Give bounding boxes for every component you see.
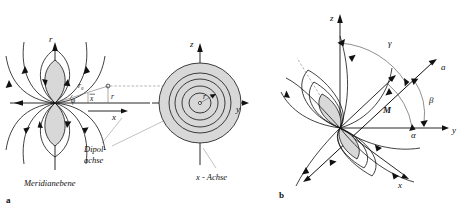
panel-b-M-vector [340, 75, 396, 128]
label-x-achse-callout: x - Achse [195, 172, 227, 182]
label-r-cross: r [203, 92, 206, 101]
label-x-bar: x [89, 94, 94, 103]
label-y-axis-cross: y [235, 104, 240, 114]
panel-b-label-a: a [441, 62, 446, 72]
diagram-canvas: r r₀ r x φ x Dipol- achse Meridianebene … [0, 0, 471, 212]
arc-beta [414, 80, 425, 123]
label-z-axis-cross: z [189, 39, 194, 49]
label-x-axis: x [111, 112, 116, 122]
panel-b-dipole-axis [303, 59, 437, 182]
panel-a-cross-section: z y r x - Achse [152, 39, 249, 182]
panel-b-dipole-orientation: z y x M a α β γ b [279, 13, 465, 200]
label-dipole-axis-line2: achse [84, 155, 104, 165]
panel-b-label-gamma: γ [388, 38, 392, 48]
panel-a-meridian-plane: r r₀ r x φ x Dipol- achse Meridianebene … [6, 34, 182, 205]
x-achse-leader [203, 148, 216, 168]
panel-b-label-alpha: α [411, 130, 416, 140]
panel-b-label-beta: β [428, 95, 434, 105]
label-r-radius: r [111, 92, 114, 101]
label-meridian-plane: Meridianebene [23, 178, 76, 188]
label-dipole-axis-line1: Dipol- [83, 144, 106, 154]
label-phi-angle: φ [71, 96, 75, 105]
label-r-axis: r [49, 34, 53, 44]
panel-b-label-x: x [397, 180, 402, 190]
figure-root: r r₀ r x φ x Dipol- achse Meridianebene … [0, 0, 471, 212]
arc-gamma [340, 43, 406, 83]
panel-b-field-line-3 [296, 128, 340, 186]
arc-alpha [388, 84, 412, 127]
panel-b-label-M: M [382, 105, 392, 115]
panel-label-a: a [6, 195, 11, 205]
panel-b-label-z: z [329, 13, 334, 23]
meridian-horizontal-axis [10, 100, 150, 106]
panel-label-b: b [279, 190, 284, 200]
panel-b-y-axis [340, 125, 449, 130]
panel-b-label-y: y [451, 125, 456, 135]
label-r-zero: r₀ [78, 81, 84, 90]
